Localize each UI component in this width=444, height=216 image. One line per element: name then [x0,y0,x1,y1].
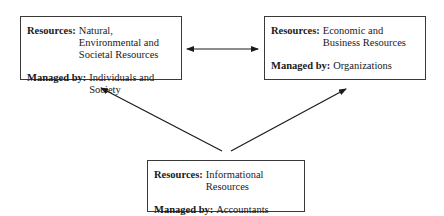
managed-by-value: Organizations [333,60,392,72]
arrow-to-right-box [231,89,346,151]
managed-by-label: Managed by: [154,204,213,216]
managed-by-label: Managed by: [27,72,86,96]
managed-by-value: Accountants [216,204,269,216]
managed-by-value: Individuals and Society [89,72,175,96]
resources-value: Natural, Environmental and Societal Reso… [79,25,175,61]
resources-label: Resources: [271,25,320,49]
node-economic-resources: Resources: Economic and Business Resourc… [264,16,426,80]
resources-value: Informational Resources [206,169,298,193]
node-informational-resources: Resources: Informational Resources Manag… [147,160,305,212]
arrow-to-left-box [101,88,222,151]
resources-label: Resources: [27,25,76,61]
resources-value: Economic and Business Resources [323,25,419,49]
resources-label: Resources: [154,169,203,193]
managed-by-label: Managed by: [271,60,330,72]
node-natural-resources: Resources: Natural, Environmental and So… [20,16,182,80]
